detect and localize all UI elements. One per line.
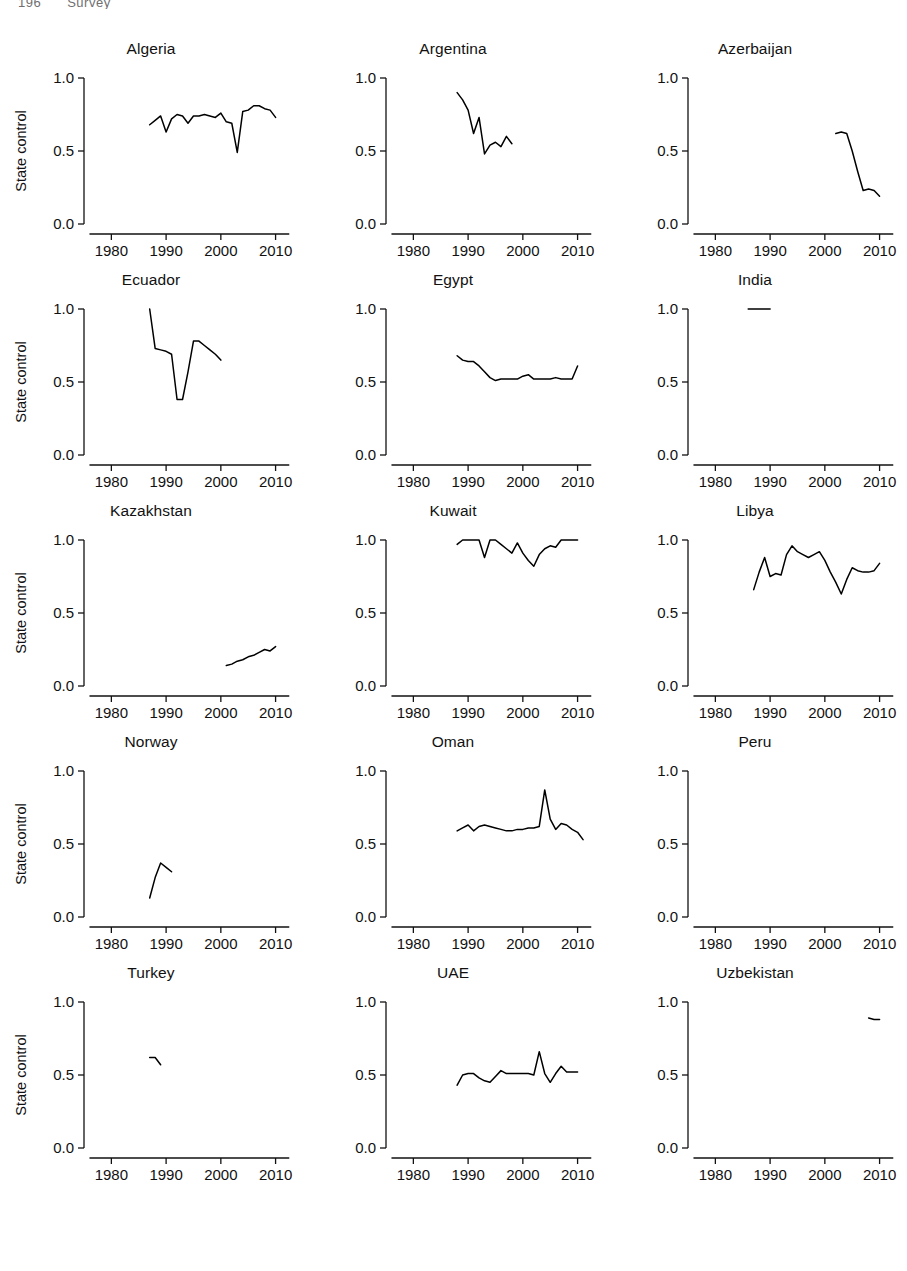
y-tick-label: 1.0 (657, 531, 678, 548)
x-tick-label: 1990 (149, 704, 182, 721)
x-tick-label: 2000 (506, 935, 539, 952)
y-tick-label: 1.0 (657, 69, 678, 86)
y-tick-label: 1.0 (355, 993, 376, 1010)
x-tick-label: 1990 (753, 242, 786, 259)
y-tick-label: 0.5 (53, 142, 74, 159)
x-tick-label: 2000 (204, 242, 237, 259)
series-line (226, 647, 275, 666)
panel-argentina: Argentina0.00.51.01980199020002010 (302, 34, 604, 265)
y-tick-label: 0.0 (657, 908, 678, 925)
x-tick-label: 1990 (451, 704, 484, 721)
y-tick-label: 1.0 (355, 762, 376, 779)
x-tick-label: 1980 (95, 1166, 128, 1183)
y-tick-label: 0.5 (355, 142, 376, 159)
panel-plot: 0.00.51.01980199020002010Year (604, 958, 906, 1189)
y-tick-label: 1.0 (657, 993, 678, 1010)
series-line (150, 1057, 161, 1064)
x-tick-label: 2000 (808, 1166, 841, 1183)
y-tick-label: 0.5 (53, 373, 74, 390)
series-line (457, 93, 512, 154)
x-tick-label: 2010 (863, 242, 896, 259)
x-tick-label: 1980 (397, 935, 430, 952)
x-tick-label: 2010 (561, 704, 594, 721)
x-tick-label: 1990 (451, 473, 484, 490)
x-tick-label: 2010 (561, 1166, 594, 1183)
y-tick-label: 0.5 (53, 835, 74, 852)
y-tick-label: 0.5 (355, 373, 376, 390)
x-tick-label: 1990 (149, 242, 182, 259)
running-head-text: Survey (67, 0, 110, 9)
y-axis-title: State control (13, 341, 29, 422)
page-running-head: 196Survey (18, 0, 111, 9)
x-tick-label: 2000 (808, 242, 841, 259)
y-tick-label: 0.0 (355, 215, 376, 232)
panel-plot: 0.00.51.01980199020002010State control (0, 496, 302, 727)
y-tick-label: 0.0 (657, 446, 678, 463)
x-tick-label: 1980 (95, 473, 128, 490)
x-tick-label: 2010 (259, 1166, 292, 1183)
x-tick-label: 1990 (149, 935, 182, 952)
panel-plot: 0.00.51.01980199020002010 (604, 496, 906, 727)
x-tick-label: 1990 (753, 704, 786, 721)
y-tick-label: 1.0 (53, 531, 74, 548)
y-tick-label: 0.0 (355, 677, 376, 694)
x-tick-label: 2010 (259, 704, 292, 721)
y-tick-label: 0.5 (355, 604, 376, 621)
x-tick-label: 1980 (95, 704, 128, 721)
x-tick-label: 1980 (699, 1166, 732, 1183)
x-tick-label: 1990 (149, 1166, 182, 1183)
panel-ecuador: Ecuador0.00.51.01980199020002010State co… (0, 265, 302, 496)
series-line (836, 132, 880, 196)
x-tick-label: 2010 (863, 1166, 896, 1183)
x-tick-label: 2010 (259, 935, 292, 952)
x-tick-label: 2000 (808, 935, 841, 952)
y-tick-label: 0.0 (53, 677, 74, 694)
x-tick-label: 1980 (95, 935, 128, 952)
x-tick-label: 1980 (699, 242, 732, 259)
y-tick-label: 0.5 (657, 1066, 678, 1083)
series-line (754, 546, 880, 594)
x-tick-label: 1990 (753, 935, 786, 952)
x-tick-label: 1980 (397, 704, 430, 721)
panel-peru: Peru0.00.51.01980199020002010 (604, 727, 906, 958)
x-tick-label: 2010 (863, 473, 896, 490)
y-tick-label: 0.0 (657, 1139, 678, 1156)
y-tick-label: 0.0 (355, 908, 376, 925)
y-tick-label: 0.5 (657, 373, 678, 390)
y-tick-label: 0.0 (53, 908, 74, 925)
y-tick-label: 0.5 (53, 604, 74, 621)
panel-plot: 0.00.51.01980199020002010 (302, 34, 604, 265)
y-tick-label: 1.0 (53, 993, 74, 1010)
x-tick-label: 2010 (259, 473, 292, 490)
panel-uae: UAE0.00.51.01980199020002010Year (302, 958, 604, 1189)
x-tick-label: 1990 (451, 1166, 484, 1183)
y-tick-label: 0.0 (355, 1139, 376, 1156)
y-tick-label: 1.0 (53, 69, 74, 86)
y-tick-label: 0.5 (657, 142, 678, 159)
y-tick-label: 0.5 (355, 835, 376, 852)
x-tick-label: 2000 (808, 704, 841, 721)
panel-plot: 0.00.51.01980199020002010 (604, 34, 906, 265)
panel-plot: 0.00.51.01980199020002010State control (0, 34, 302, 265)
panel-uzbekistan: Uzbekistan0.00.51.01980199020002010Year (604, 958, 906, 1189)
panel-turkey: Turkey0.00.51.01980199020002010State con… (0, 958, 302, 1189)
series-line (457, 790, 583, 840)
series-line (457, 356, 577, 381)
panel-algeria: Algeria0.00.51.01980199020002010State co… (0, 34, 302, 265)
x-tick-label: 1980 (699, 704, 732, 721)
x-tick-label: 2000 (506, 704, 539, 721)
x-tick-label: 2010 (561, 935, 594, 952)
series-line (457, 1052, 577, 1086)
y-axis-title: State control (13, 803, 29, 884)
series-line (869, 1018, 880, 1019)
x-tick-label: 1990 (149, 473, 182, 490)
y-tick-label: 0.0 (657, 677, 678, 694)
x-tick-label: 2000 (506, 473, 539, 490)
x-tick-label: 2000 (204, 935, 237, 952)
panel-kazakhstan: Kazakhstan0.00.51.01980199020002010State… (0, 496, 302, 727)
panel-india: India0.00.51.01980199020002010 (604, 265, 906, 496)
x-tick-label: 1980 (95, 242, 128, 259)
y-axis-title: State control (13, 572, 29, 653)
y-tick-label: 1.0 (355, 300, 376, 317)
y-tick-label: 1.0 (657, 300, 678, 317)
